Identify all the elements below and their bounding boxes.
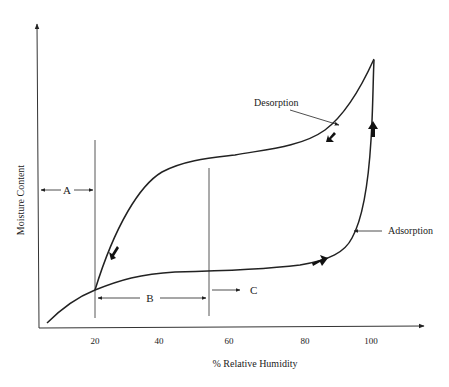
label-adsorption: Adsorption — [388, 225, 433, 236]
x-tick-40: 40 — [155, 336, 165, 346]
x-tick-100: 100 — [364, 336, 378, 346]
x-tick-80: 80 — [301, 336, 311, 346]
x-axis — [39, 326, 424, 328]
adsorption-curve — [47, 60, 374, 323]
x-tick-20: 20 — [91, 336, 101, 346]
label-C: C — [250, 284, 257, 296]
x-tick-60: 60 — [225, 336, 235, 346]
label-A: A — [63, 184, 71, 196]
label-B: B — [146, 292, 153, 304]
sorption-isotherm-chart: A B C Desorption Adsorption 20 40 60 80 … — [0, 0, 449, 387]
label-desorption: Desorption — [254, 97, 298, 108]
adsorption-arrow-icon — [312, 255, 328, 266]
y-axis-label: Moisture Content — [15, 165, 26, 235]
y-axis — [37, 24, 39, 328]
desorption-arrow-icon — [326, 132, 336, 142]
adsorption-up-arrow-icon — [368, 121, 378, 137]
x-axis-label: % Relative Humidity — [213, 358, 298, 369]
desorption-pointer — [290, 110, 339, 125]
